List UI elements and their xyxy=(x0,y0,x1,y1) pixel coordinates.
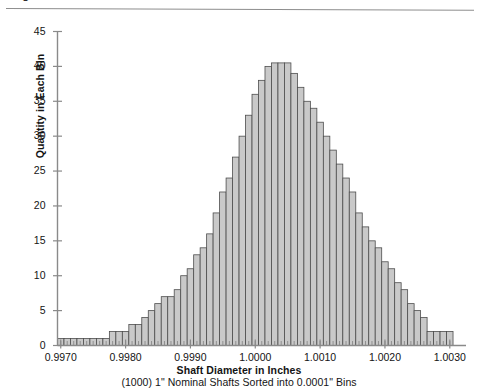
histogram-bar xyxy=(336,164,342,345)
histogram-bar xyxy=(375,248,381,346)
histogram-figure: Figure 9 — Shaft diameter distribution Q… xyxy=(0,0,478,391)
histogram-bar xyxy=(297,87,303,345)
histogram-bar xyxy=(259,80,265,345)
histogram-bar xyxy=(265,66,271,345)
histogram-bar xyxy=(317,122,323,345)
histogram-bar xyxy=(323,136,329,345)
histogram-bar xyxy=(304,101,310,345)
histogram-bar xyxy=(362,227,368,346)
histogram-bars xyxy=(58,63,454,346)
histogram-bar xyxy=(168,297,174,346)
histogram-bar xyxy=(382,262,388,346)
histogram-bar xyxy=(239,136,245,345)
histogram-bar xyxy=(388,269,394,346)
histogram-bar xyxy=(207,234,213,346)
plot-area xyxy=(0,0,478,391)
histogram-bar xyxy=(226,178,232,345)
histogram-bar xyxy=(233,157,239,345)
histogram-bar xyxy=(246,115,252,345)
histogram-bar xyxy=(284,63,290,346)
histogram-bar xyxy=(220,192,226,346)
histogram-bar xyxy=(343,178,349,345)
histogram-bar xyxy=(271,63,277,346)
histogram-bar xyxy=(330,150,336,345)
histogram-bar xyxy=(395,283,401,346)
histogram-bar xyxy=(291,73,297,345)
histogram-bar xyxy=(194,255,200,346)
histogram-bar xyxy=(155,304,161,346)
histogram-bar xyxy=(148,311,154,346)
histogram-bar xyxy=(161,297,167,346)
histogram-bar xyxy=(401,290,407,346)
histogram-bar xyxy=(369,241,375,346)
histogram-bar xyxy=(200,248,206,346)
histogram-bar xyxy=(310,108,316,345)
histogram-bar xyxy=(252,94,258,345)
histogram-bar xyxy=(278,63,284,346)
histogram-bar xyxy=(187,269,193,346)
histogram-bar xyxy=(181,276,187,346)
histogram-bar xyxy=(213,213,219,346)
histogram-bar xyxy=(174,290,180,346)
histogram-bar xyxy=(408,304,414,346)
histogram-bar xyxy=(356,213,362,346)
histogram-bar xyxy=(349,192,355,346)
histogram-bar xyxy=(414,311,420,346)
